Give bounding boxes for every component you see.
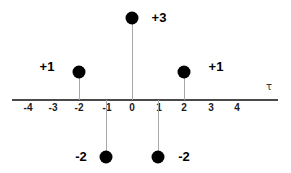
tick-label-minus4: -4 (24, 102, 33, 114)
tick-label-three: 3 (208, 102, 214, 114)
stem-marker-one (152, 151, 165, 164)
value-label-two: +1 (209, 60, 224, 73)
tick-label-minus2: -2 (75, 102, 84, 114)
value-label-minus1: -2 (75, 150, 87, 163)
tick-label-two: 2 (181, 102, 187, 114)
stem-marker-two (178, 66, 191, 79)
stem-marker-zero (126, 12, 139, 25)
stem-plot-chart: τ -4 -3 -2 -1 0 1 2 3 4 +1 -2 +3 -2 +1 (0, 0, 291, 173)
stem-line-one (158, 100, 159, 157)
value-label-one: -2 (178, 150, 190, 163)
x-axis-label: τ (266, 82, 272, 92)
value-label-zero: +3 (152, 11, 167, 24)
tick-label-minus3: -3 (49, 102, 58, 114)
tick-label-minus1: -1 (103, 102, 112, 114)
x-axis-line (12, 99, 278, 101)
tick-label-four: 4 (234, 102, 240, 114)
stem-line-zero (132, 18, 133, 100)
value-label-minus2: +1 (40, 60, 55, 73)
stem-line-minus1 (106, 100, 107, 157)
tick-label-zero: 0 (129, 102, 135, 114)
stem-marker-minus2 (73, 66, 86, 79)
stem-marker-minus1 (100, 151, 113, 164)
